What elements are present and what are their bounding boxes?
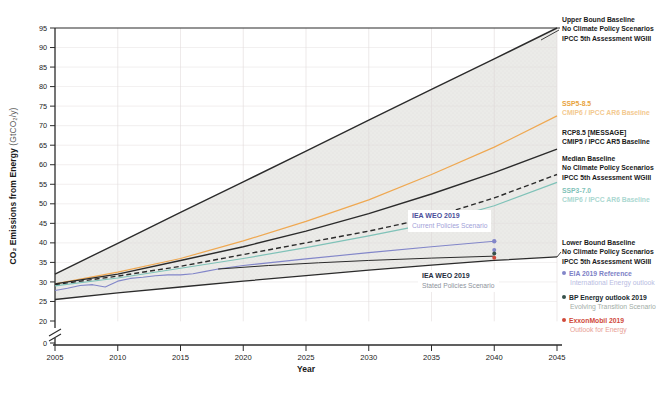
x-tick-2005: 2005 bbox=[47, 353, 64, 362]
legend-line: SSP3-7.0 bbox=[562, 186, 670, 195]
x-tick-2020: 2020 bbox=[235, 353, 252, 362]
bp-energy-outlook-2019-marker bbox=[492, 251, 496, 255]
legend-line: Upper Bound Baseline bbox=[562, 15, 670, 24]
y-tick-0: 0 bbox=[43, 339, 47, 348]
y-tick-80: 80 bbox=[39, 82, 47, 91]
exxonmobil-2019-marker bbox=[492, 256, 496, 260]
legend-entry-bp-energy-outlook-2019: BP Energy outlook 2019Evolving Transitio… bbox=[562, 293, 670, 312]
eia-2019-reference-marker bbox=[492, 248, 496, 252]
lower-bound-leader-line bbox=[557, 252, 561, 257]
bullet-dot-icon bbox=[562, 295, 566, 299]
annotation-title: IEA WEO 2019 bbox=[422, 271, 495, 281]
legend-entry-exxonmobil-2019: ExxonMobil 2019Outlook for Energy bbox=[562, 316, 670, 335]
y-axis-label: CO₂ Emissions from Energy (GtCO₂/y) bbox=[8, 108, 18, 265]
legend-line: CMIP6 / IPCC AR6 Baseline bbox=[562, 195, 670, 204]
x-tick-2035: 2035 bbox=[423, 353, 440, 362]
y-tick-55: 55 bbox=[39, 180, 47, 189]
legend-line: CMIP5 / IPCC AR5 Baseline bbox=[562, 137, 670, 146]
legend-line: EIA 2019 Reference bbox=[562, 269, 670, 278]
y-tick-30: 30 bbox=[39, 278, 47, 287]
y-tick-40: 40 bbox=[39, 238, 47, 247]
y-tick-60: 60 bbox=[39, 160, 47, 169]
legend-entry-lower-bound-baseline: Lower Bound BaselineNo Climate Policy Sc… bbox=[562, 238, 670, 266]
legend-line: SSP5-8.5 bbox=[562, 99, 670, 108]
legend-line: Evolving Transition Scenario bbox=[562, 302, 670, 311]
y-tick-25: 25 bbox=[39, 297, 47, 306]
y-tick-45: 45 bbox=[39, 219, 47, 228]
legend-line: No Climate Policy Scenarios bbox=[562, 24, 670, 33]
legend-line: International Energy outlook bbox=[562, 278, 670, 287]
legend-line: CMIP6 / IPCC AR6 Baseline bbox=[562, 108, 670, 117]
y-tick-65: 65 bbox=[39, 141, 47, 150]
y-axis-label-main: CO₂ Emissions from Energy bbox=[8, 146, 18, 265]
x-axis-label: Year bbox=[297, 364, 315, 374]
annotation-iea-weo-2019-stated: IEA WEO 2019Stated Policies Scenario bbox=[418, 270, 499, 292]
y-tick-35: 35 bbox=[39, 258, 47, 267]
annotation-title: IEA WEO 2019 bbox=[412, 211, 487, 221]
bullet-dot-icon bbox=[562, 271, 566, 275]
legend-line: No Climate Policy Scenarios bbox=[562, 247, 670, 256]
y-tick-70: 70 bbox=[39, 121, 47, 130]
legend-line: Median Baseline bbox=[562, 154, 670, 163]
x-tick-2025: 2025 bbox=[298, 353, 315, 362]
legend-line: Lower Bound Baseline bbox=[562, 238, 670, 247]
legend-line: ExxonMobil 2019 bbox=[562, 316, 670, 325]
y-axis-label-unit: (GtCO₂/y) bbox=[8, 108, 18, 146]
legend-entry-ssp5-8.5: SSP5-8.5CMIP6 / IPCC AR6 Baseline bbox=[562, 99, 670, 118]
legend-entry-median-baseline: Median BaselineNo Climate Policy Scenari… bbox=[562, 154, 670, 182]
legend-line: IPCC 5th Assessment WGIII bbox=[562, 257, 670, 266]
legend-line: No Climate Policy Scenarios bbox=[562, 163, 670, 172]
x-tick-2015: 2015 bbox=[172, 353, 189, 362]
y-tick-90: 90 bbox=[39, 43, 47, 52]
legend-entry-eia-2019-reference: EIA 2019 ReferenceInternational Energy o… bbox=[562, 269, 670, 288]
co2-emissions-scenarios-figure: 0202530354045505560657075808590952005201… bbox=[0, 0, 672, 395]
annotation-iea-weo-2019-current: IEA WEO 2019Current Policies Scenario bbox=[408, 210, 491, 232]
y-tick-75: 75 bbox=[39, 102, 47, 111]
x-tick-2030: 2030 bbox=[360, 353, 377, 362]
y-tick-50: 50 bbox=[39, 199, 47, 208]
y-tick-85: 85 bbox=[39, 63, 47, 72]
legend-entry-upper-bound-baseline: Upper Bound BaselineNo Climate Policy Sc… bbox=[562, 15, 670, 43]
annotation-subtitle: Stated Policies Scenario bbox=[422, 281, 495, 290]
legend-line: RCP8.5 [MESSAGE] bbox=[562, 128, 670, 137]
legend-entry-rcp8.5-message: RCP8.5 [MESSAGE]CMIP5 / IPCC AR5 Baselin… bbox=[562, 128, 670, 147]
legend-line: IPCC 5th Assessment WGIII bbox=[562, 173, 670, 182]
x-tick-2010: 2010 bbox=[109, 353, 126, 362]
y-tick-95: 95 bbox=[39, 24, 47, 33]
iea-weo-2019-current-policies-end-marker bbox=[492, 239, 496, 243]
legend-entry-ssp3-7.0: SSP3-7.0CMIP6 / IPCC AR6 Baseline bbox=[562, 186, 670, 205]
x-tick-2040: 2040 bbox=[486, 353, 503, 362]
annotation-subtitle: Current Policies Scenario bbox=[412, 221, 487, 230]
legend-line: Outlook for Energy bbox=[562, 325, 670, 334]
bullet-dot-icon bbox=[562, 318, 566, 322]
legend-line: IPCC 5th Assessment WGIII bbox=[562, 34, 670, 43]
y-tick-20: 20 bbox=[39, 317, 47, 326]
legend-line: BP Energy outlook 2019 bbox=[562, 293, 670, 302]
x-tick-2045: 2045 bbox=[549, 353, 566, 362]
